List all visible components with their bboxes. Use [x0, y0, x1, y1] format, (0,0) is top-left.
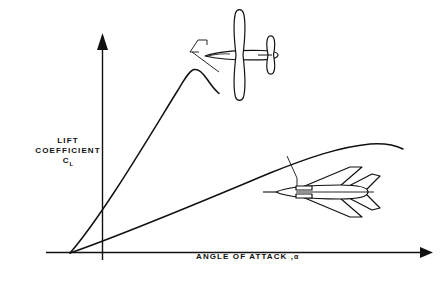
y-axis-label-line-1: LIFT [30, 136, 106, 146]
y-axis-symbol-subscript: L [70, 161, 74, 167]
y-axis-label: LIFT COEFFICIENT CL [30, 136, 106, 169]
intake-lower [296, 194, 312, 198]
intake-upper [296, 186, 312, 190]
y-axis-symbol-base: C [63, 156, 70, 165]
y-axis-symbol: CL [30, 156, 106, 169]
main-wing [234, 10, 245, 101]
x-axis-symbol: α [294, 253, 298, 260]
y-axis-label-line-2: COEFFICIENT [30, 146, 106, 156]
x-axis-label: ANGLE OF ATTACK ,α [196, 252, 298, 262]
x-axis-label-text: ANGLE OF ATTACK , [196, 252, 294, 261]
